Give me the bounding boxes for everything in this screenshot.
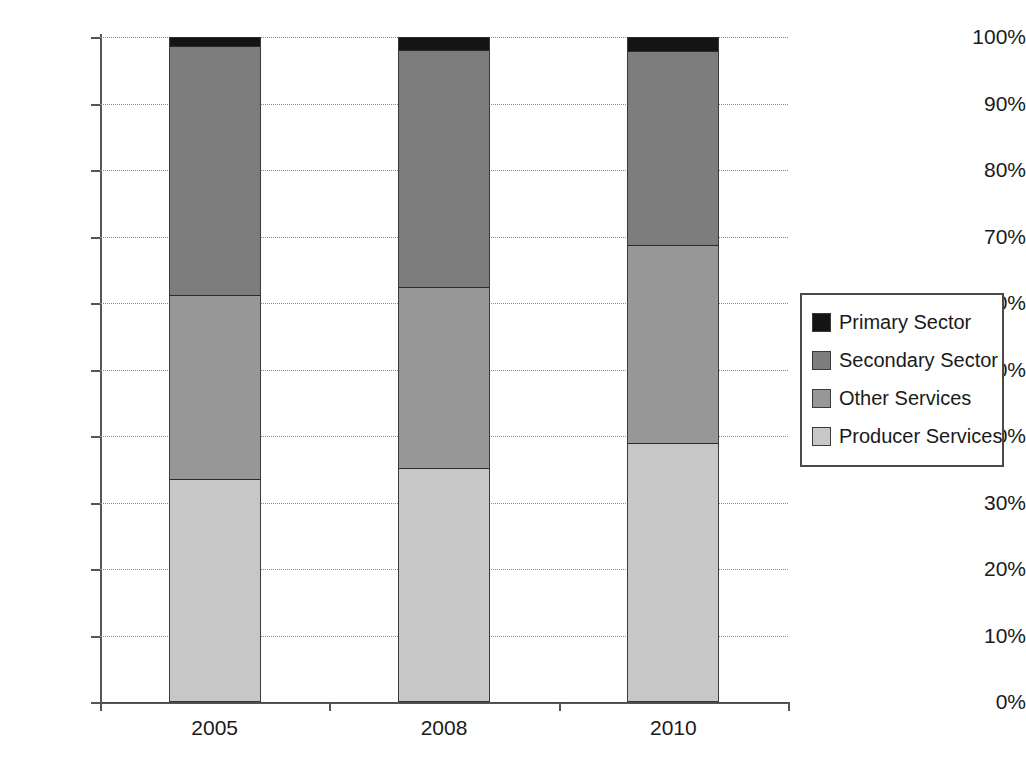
y-axis-tick xyxy=(91,104,100,106)
y-axis-tick-label: 90% xyxy=(950,92,1026,116)
legend-item-label: Other Services xyxy=(839,387,971,410)
bar-segment-secondary-sector[interactable] xyxy=(169,46,261,295)
legend-swatch-icon xyxy=(812,389,831,408)
y-axis-tick xyxy=(91,170,100,172)
bar-segment-other-services[interactable] xyxy=(169,295,261,479)
stacked-bar-2010[interactable] xyxy=(627,37,719,702)
stacked-bar-2008[interactable] xyxy=(398,37,490,702)
y-axis-tick-label: 80% xyxy=(950,158,1026,182)
legend-swatch-icon xyxy=(812,351,831,370)
y-axis-tick xyxy=(91,436,100,438)
legend-item-label: Producer Services xyxy=(839,425,1002,448)
y-axis-tick-label: 70% xyxy=(950,225,1026,249)
bar-segment-primary-sector[interactable] xyxy=(627,37,719,51)
y-axis-tick xyxy=(91,370,100,372)
y-axis-tick xyxy=(91,636,100,638)
bar-segment-other-services[interactable] xyxy=(398,287,490,468)
y-axis-tick xyxy=(91,503,100,505)
y-axis-tick-label: 0% xyxy=(950,690,1026,714)
bar-segment-secondary-sector[interactable] xyxy=(627,51,719,245)
legend-item-producer-services[interactable]: Producer Services xyxy=(812,417,994,455)
y-axis-tick xyxy=(91,702,100,704)
x-axis-tick xyxy=(329,702,331,711)
bar-segment-producer-services[interactable] xyxy=(169,479,261,702)
legend-item-primary-sector[interactable]: Primary Sector xyxy=(812,303,994,341)
legend-item-secondary-sector[interactable]: Secondary Sector xyxy=(812,341,994,379)
y-axis-tick-label: 10% xyxy=(950,624,1026,648)
bar-segment-secondary-sector[interactable] xyxy=(398,50,490,287)
bar-segment-primary-sector[interactable] xyxy=(169,37,261,46)
plot-area xyxy=(100,37,788,702)
x-axis-tick xyxy=(100,702,102,711)
legend-item-label: Primary Sector xyxy=(839,311,971,334)
legend-swatch-icon xyxy=(812,313,831,332)
bar-segment-primary-sector[interactable] xyxy=(398,37,490,50)
stacked-bar-2005[interactable] xyxy=(169,37,261,702)
x-axis-tick xyxy=(559,702,561,711)
bar-segment-producer-services[interactable] xyxy=(627,443,719,702)
x-axis-tick-label: 2010 xyxy=(650,716,697,740)
y-axis-tick xyxy=(91,37,100,39)
y-axis-tick xyxy=(91,569,100,571)
legend: Primary SectorSecondary SectorOther Serv… xyxy=(800,293,1004,467)
x-axis-tick-label: 2008 xyxy=(421,716,468,740)
bar-segment-producer-services[interactable] xyxy=(398,468,490,702)
legend-item-label: Secondary Sector xyxy=(839,349,998,372)
y-axis-tick-label: 100% xyxy=(950,25,1026,49)
chart-page: 0%10%20%30%40%50%60%70%80%90%100% 200520… xyxy=(0,0,1026,767)
y-axis-tick-label: 30% xyxy=(950,491,1026,515)
y-axis-tick xyxy=(91,237,100,239)
legend-item-other-services[interactable]: Other Services xyxy=(812,379,994,417)
x-axis-tick-label: 2005 xyxy=(191,716,238,740)
y-axis-tick-label: 20% xyxy=(950,557,1026,581)
x-axis-tick xyxy=(788,702,790,711)
gridline xyxy=(100,702,788,703)
bar-segment-other-services[interactable] xyxy=(627,245,719,443)
y-axis-tick xyxy=(91,303,100,305)
legend-swatch-icon xyxy=(812,427,831,446)
